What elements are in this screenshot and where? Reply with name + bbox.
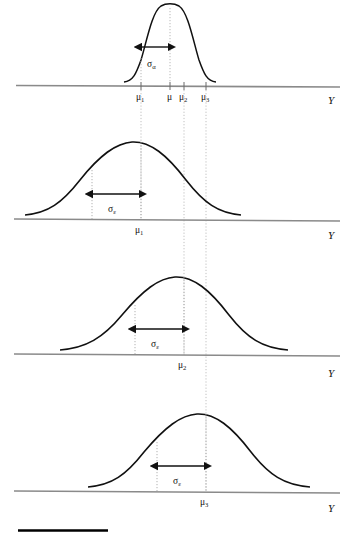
tick-label-mu3: μ3 [201,92,210,103]
normal-distributions-figure: σα μ1 μ μ2 μ3 Y σε μ1 [0,0,356,542]
axis-line-2 [14,219,340,221]
center-label-2: μ1 [135,225,143,236]
sigma-alpha-label: σα [147,59,156,70]
tick-label-mu1: μ1 [136,92,144,103]
panel-2: σε μ1 Y [14,142,340,241]
sigma-epsilon-label-4: σε [173,476,181,487]
center-label-4: μ3 [200,497,209,508]
tick-label-mu2: μ2 [179,92,187,103]
axis-name-1: Y [328,94,336,106]
axis-name-3: Y [328,367,336,379]
axis-name-4: Y [328,502,336,514]
sigma-epsilon-label-3: σε [151,339,159,350]
distribution-curve-group3 [88,414,310,487]
panel-4: σε μ3 Y [14,414,340,514]
distribution-curve-group2 [60,277,288,350]
distribution-curve-means [124,4,216,82]
axis-line-1 [16,86,340,88]
axis-name-2: Y [328,229,336,241]
distribution-curve-group1 [25,142,241,215]
panel-1: σα μ1 μ μ2 μ3 Y [16,4,340,106]
sigma-epsilon-label-2: σε [108,204,116,215]
axis-line-3 [14,354,340,356]
axis-line-4 [14,491,340,493]
cross-panel-guides [141,90,206,492]
tick-label-mu: μ [167,92,172,102]
center-label-3: μ2 [178,360,186,371]
panel-3: σε μ2 Y [14,277,340,379]
